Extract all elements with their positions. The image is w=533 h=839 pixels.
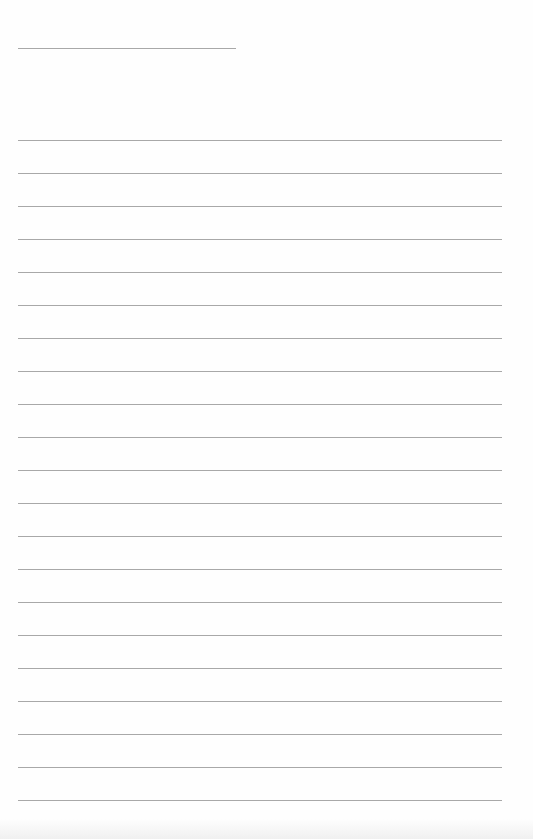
ruled-line — [18, 305, 502, 306]
ruled-line — [18, 206, 502, 207]
ruled-line — [18, 173, 502, 174]
ruled-line — [18, 239, 502, 240]
ruled-line — [18, 503, 502, 504]
ruled-line — [18, 668, 502, 669]
ruled-line — [18, 470, 502, 471]
ruled-line — [18, 272, 502, 273]
ruled-line — [18, 371, 502, 372]
header-line — [18, 48, 236, 49]
ruled-line — [18, 701, 502, 702]
ruled-line — [18, 734, 502, 735]
ruled-line — [18, 767, 502, 768]
ruled-line — [18, 536, 502, 537]
page-bottom-shadow — [0, 819, 533, 839]
ruled-line — [18, 404, 502, 405]
ruled-line — [18, 338, 502, 339]
lined-paper-page — [0, 0, 533, 839]
ruled-line — [18, 437, 502, 438]
ruled-line — [18, 140, 502, 141]
ruled-line — [18, 569, 502, 570]
ruled-line — [18, 635, 502, 636]
ruled-line — [18, 602, 502, 603]
ruled-line — [18, 800, 502, 801]
